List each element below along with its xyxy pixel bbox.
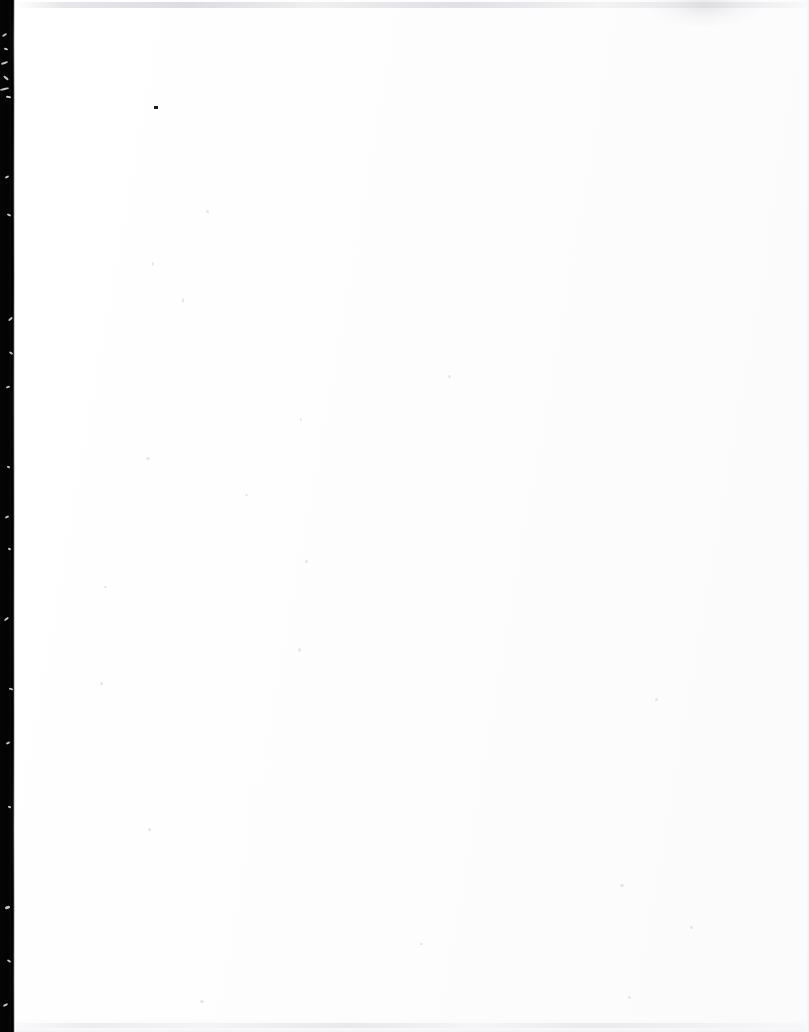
paper-speck [182, 298, 184, 303]
paper-speck [100, 682, 103, 685]
scanned-page [0, 0, 809, 1032]
paper-tone [14, 0, 809, 1032]
paper-speck [655, 698, 658, 701]
paper-speck [420, 943, 423, 945]
paper-speck [300, 418, 302, 421]
paper-speck [245, 494, 248, 496]
paper-speck [146, 457, 150, 460]
paper-speck [298, 648, 301, 652]
paper-speck [628, 996, 631, 999]
binding-gutter-edge [11, 0, 15, 1032]
paper-speck [152, 262, 154, 266]
ink-speck [154, 106, 158, 109]
paper-speck [620, 884, 624, 887]
scanner-smudge-top-right [648, 0, 760, 26]
paper-surface [0, 0, 809, 1032]
paper-speck [148, 828, 151, 831]
paper-speck [690, 926, 693, 929]
paper-speck [305, 560, 308, 563]
paper-speck [448, 375, 451, 378]
paper-speck [206, 210, 209, 213]
scanner-streak-bottom [16, 1023, 806, 1028]
paper-speck [200, 1000, 204, 1003]
paper-speck [104, 586, 107, 588]
